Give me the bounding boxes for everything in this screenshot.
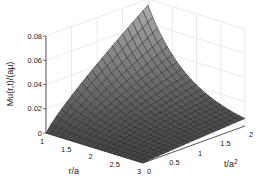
x-tick-label: 3 [137, 167, 141, 176]
x-tick-label: 1 [40, 137, 44, 146]
y-tick-label: 2 [249, 130, 253, 139]
z-axis-label: Mu(r,t)/(aμ) [5, 62, 15, 107]
x-tick-label: 1.5 [61, 145, 71, 154]
y-axis-label: t/a2 [224, 157, 238, 169]
z-tick-label: 0.02 [27, 104, 42, 113]
y-tick-label: 1 [198, 149, 202, 158]
y-tick-label: 0 [147, 167, 151, 176]
surface-mesh [46, 5, 245, 163]
plot-canvas: 00.020.040.060.0811.522.5300.511.52 r/a … [0, 0, 269, 182]
surface-plot: 00.020.040.060.0811.522.5300.511.52 r/a … [0, 0, 269, 182]
y-tick-label: 1.5 [220, 139, 230, 148]
z-tick-label: 0.04 [27, 80, 42, 89]
y-tick-label: 0.5 [169, 158, 179, 167]
z-tick-label: 0.08 [27, 32, 42, 41]
x-axis-label: r/a [69, 166, 80, 176]
x-tick-label: 2.5 [110, 160, 120, 169]
z-tick-label: 0.06 [27, 56, 42, 65]
x-tick-label: 2 [88, 152, 92, 161]
